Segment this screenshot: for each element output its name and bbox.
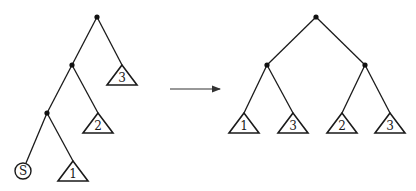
leaf-label: S: [19, 164, 27, 178]
left-tree-edge: [26, 113, 47, 163]
left-tree-special-leaf: S: [15, 163, 31, 179]
right-tree-subtree-3: 3: [375, 113, 405, 133]
subtree-label: 2: [338, 119, 346, 133]
right-tree-edge: [342, 65, 365, 113]
right-tree-internal-node: [362, 62, 367, 67]
left-tree-edge: [72, 17, 97, 65]
subtree-label: 1: [240, 119, 248, 133]
right-tree: 1323: [229, 14, 405, 133]
right-tree-edge: [267, 17, 316, 65]
left-tree-subtree-2: 2: [83, 113, 113, 133]
left-tree-edge: [72, 65, 98, 113]
subtree-label: 3: [118, 71, 126, 85]
subtree-label: 1: [69, 167, 77, 181]
right-tree-edge: [316, 17, 365, 65]
left-tree: 321S: [15, 14, 137, 181]
left-tree-internal-node: [44, 110, 49, 115]
right-tree-edge: [244, 65, 267, 113]
left-tree-subtree-1: 1: [58, 161, 88, 181]
left-tree-edge: [47, 113, 73, 161]
tree-transformation-diagram: 321S 1323: [0, 0, 416, 191]
right-tree-internal-node: [313, 14, 318, 19]
left-tree-internal-node: [69, 62, 74, 67]
right-tree-edge: [267, 65, 293, 113]
left-tree-edge: [97, 17, 122, 65]
right-tree-subtree-1: 1: [229, 113, 259, 133]
subtree-label: 2: [94, 119, 102, 133]
right-tree-subtree-2: 2: [327, 113, 357, 133]
right-tree-internal-node: [264, 62, 269, 67]
left-tree-edge: [47, 65, 72, 113]
subtree-label: 3: [386, 119, 394, 133]
right-tree-subtree-3: 3: [278, 113, 308, 133]
subtree-label: 3: [289, 119, 297, 133]
left-tree-subtree-3: 3: [107, 65, 137, 85]
right-tree-edge: [365, 65, 390, 113]
left-tree-internal-node: [94, 14, 99, 19]
